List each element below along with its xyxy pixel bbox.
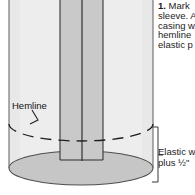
cylinder-right-shade xyxy=(142,0,153,176)
cylinder-left-shade xyxy=(9,0,20,176)
instruction-line-5: elastic p xyxy=(158,40,195,50)
elastic-width-note: Elastic w plus ½" xyxy=(158,146,195,168)
hemline-label: Hemline xyxy=(12,100,47,111)
elastic-note-line-1: Elastic w xyxy=(158,146,195,157)
instruction-text-block: 1. Mark sleeve. A casing w hemline elast… xyxy=(158,1,195,50)
elastic-note-line-2: plus ½" xyxy=(158,157,195,168)
sewing-illustration-screenshot: Hemline 1. Mark sleeve. A casing w hemli… xyxy=(0,0,195,195)
